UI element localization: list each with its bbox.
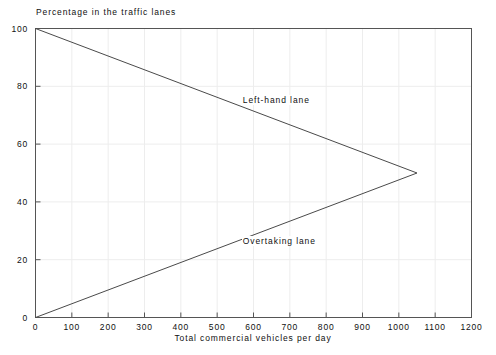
x-axis-title: Total commercial vehicles per day: [0, 333, 496, 343]
series-annotation-1: Overtaking lane: [242, 236, 317, 246]
chart-figure: Percentage in the traffic lanes 02040608…: [0, 0, 496, 355]
x-tick-label: 500: [197, 322, 237, 332]
y-tick-label: 80: [2, 81, 28, 91]
x-tick-label: 1000: [379, 322, 419, 332]
y-tick-label: 20: [2, 255, 28, 265]
y-tick-label: 60: [2, 139, 28, 149]
x-tick-label: 400: [161, 322, 201, 332]
series-line-0: [36, 29, 418, 174]
x-tick-label: 700: [270, 322, 310, 332]
series-line-1: [36, 173, 418, 318]
gridlines: [36, 29, 472, 318]
x-tick-label: 800: [306, 322, 346, 332]
series-lines: [36, 29, 418, 318]
x-tick-label: 1100: [415, 322, 455, 332]
x-tick-label: 300: [125, 322, 165, 332]
x-tick-label: 100: [52, 322, 92, 332]
plot-canvas: [0, 0, 496, 355]
x-tick-label: 0: [16, 322, 56, 332]
y-tick-label: 40: [2, 197, 28, 207]
x-axis-title-text: Total commercial vehicles per day: [174, 333, 331, 343]
x-tick-label: 600: [234, 322, 274, 332]
x-tick-label: 200: [88, 322, 128, 332]
x-tick-label: 900: [343, 322, 383, 332]
y-tick-label: 100: [2, 24, 28, 34]
x-tick-label: 1200: [452, 322, 492, 332]
series-annotation-0: Left-hand lane: [242, 95, 311, 105]
chart-title: Percentage in the traffic lanes: [36, 7, 176, 17]
